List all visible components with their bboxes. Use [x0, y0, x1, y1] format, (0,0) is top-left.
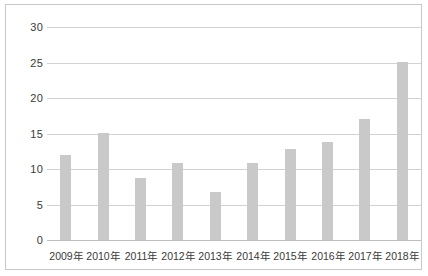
bar [210, 192, 221, 240]
bar [172, 163, 183, 240]
y-axis: 051015202530 [6, 5, 43, 276]
bar [322, 142, 333, 240]
x-tick-label: 2017年 [345, 250, 385, 263]
gridline-20 [47, 98, 421, 99]
y-tick-label: 30 [13, 22, 43, 33]
gridline-30 [47, 27, 421, 28]
y-tick-label: 10 [13, 164, 43, 175]
bar [60, 155, 71, 240]
bar [285, 149, 296, 240]
y-tick-label: 15 [13, 129, 43, 140]
x-tick-label: 2011年 [121, 250, 161, 263]
x-tick-label: 2010年 [83, 250, 123, 263]
gridline-25 [47, 63, 421, 64]
x-tick-label: 2012年 [158, 250, 198, 263]
x-tick-label: 2015年 [270, 250, 310, 263]
y-tick-label: 0 [13, 235, 43, 246]
bar [247, 163, 258, 240]
y-tick-label: 25 [13, 58, 43, 69]
bar [359, 119, 370, 240]
bar [397, 62, 408, 240]
bar [135, 178, 146, 240]
plot-area [47, 27, 421, 240]
x-tick-label: 2009年 [46, 250, 86, 263]
gridline-0 [47, 240, 421, 241]
x-tick-label: 2018年 [382, 250, 422, 263]
bar [98, 133, 109, 240]
x-tick-label: 2014年 [233, 250, 273, 263]
x-tick-label: 2013年 [195, 250, 235, 263]
y-tick-label: 20 [13, 93, 43, 104]
x-axis: 2009年2010年2011年2012年2013年2014年2015年2016年… [47, 250, 421, 268]
x-tick-label: 2016年 [308, 250, 348, 263]
y-tick-label: 5 [13, 200, 43, 211]
chart-frame: 051015202530 2009年2010年2011年2012年2013年20… [5, 4, 422, 270]
